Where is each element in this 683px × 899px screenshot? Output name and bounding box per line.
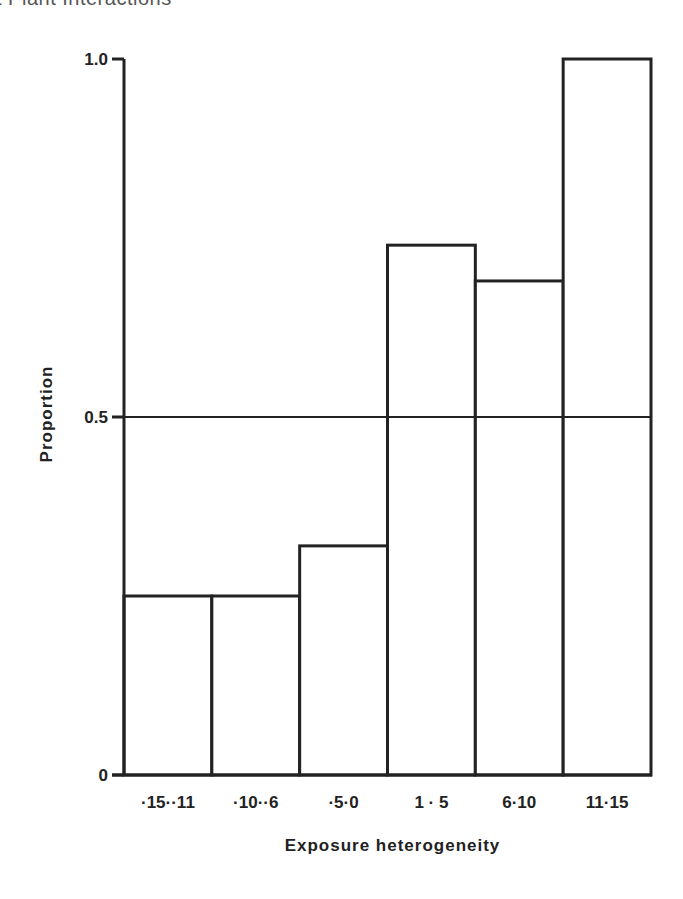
x-labels-group: ·15··11·10··6·5·01 · 56·1011·15 xyxy=(141,793,628,812)
x-axis-title: Exposure heterogeneity xyxy=(285,836,501,855)
y-tick-label: 0 xyxy=(99,766,108,785)
x-tick-label: ·5·0 xyxy=(328,793,358,812)
y-ticks-group: 00.51.0 xyxy=(84,50,124,785)
bar-chart: 00.51.0 ·15··11·10··6·5·01 · 56·1011·15 … xyxy=(0,0,683,899)
bar-1-5 xyxy=(388,245,476,775)
bar-6-10 xyxy=(475,281,563,775)
bar--15--11 xyxy=(124,596,212,775)
x-tick-label: 11·15 xyxy=(586,793,629,812)
bar--10--6 xyxy=(212,596,300,775)
x-tick-label: 1 · 5 xyxy=(414,793,448,812)
x-tick-label: ·15··11 xyxy=(141,793,195,812)
x-tick-label: ·10··6 xyxy=(233,793,278,812)
y-axis-title: Proportion xyxy=(37,366,56,463)
y-tick-label: 1.0 xyxy=(84,50,108,69)
bar--5-0 xyxy=(300,546,388,775)
y-tick-label: 0.5 xyxy=(84,408,108,427)
x-tick-label: 6·10 xyxy=(502,793,536,812)
